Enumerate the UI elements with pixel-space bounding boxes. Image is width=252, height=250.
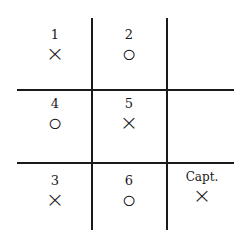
cell-label: 3 [19,174,91,188]
cell-6: 6 ○ [93,174,165,244]
cell-label: 5 [93,97,165,111]
x-mark-icon: × [93,111,165,135]
cell-label: Capt. [166,170,238,184]
cell-1: 1 × [19,28,91,98]
cell-captain: Capt. × [166,170,238,240]
cell-empty [168,28,240,98]
x-mark-icon: × [19,188,91,212]
cell-empty [168,97,240,167]
cell-label: 1 [19,28,91,42]
cell-5: 5 × [93,97,165,167]
x-mark-icon: × [166,184,238,208]
cell-2: 2 ○ [93,28,165,98]
o-mark-icon: ○ [93,188,165,212]
o-mark-icon: ○ [93,42,165,66]
cell-3: 3 × [19,174,91,244]
o-mark-icon: ○ [19,111,91,135]
cell-4: 4 ○ [19,97,91,167]
x-mark-icon: × [19,42,91,66]
